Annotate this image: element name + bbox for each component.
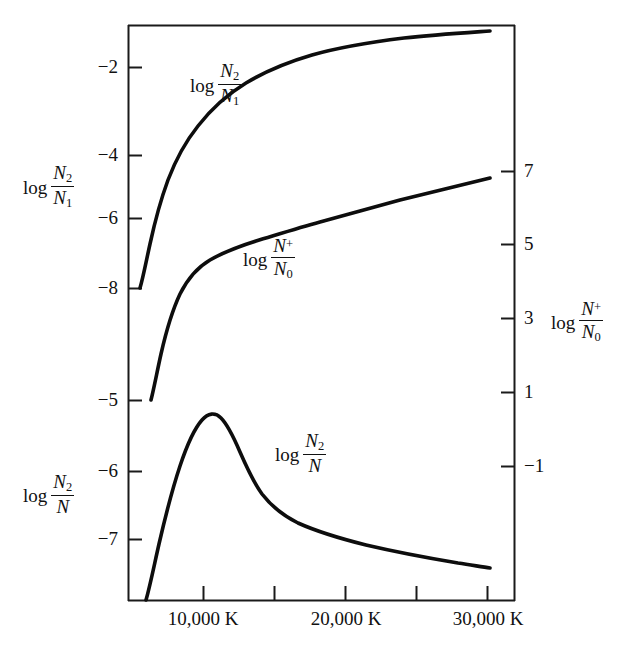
curve-annotation-upper-denominator: N1 bbox=[218, 85, 241, 108]
curve-annotation-middle-op: log bbox=[243, 249, 267, 270]
curve-annotation-lower-fraction: N2 N bbox=[303, 431, 326, 477]
x-tick-label-10000k: 10,000 K bbox=[143, 609, 263, 628]
y2-tick-label-minus6: −6 bbox=[78, 461, 118, 480]
y-right-tick-label-5: 5 bbox=[524, 234, 556, 253]
y-axis-title-lower-op: log bbox=[23, 485, 47, 506]
left-axis-ticks-upper bbox=[128, 68, 142, 289]
plot-frame bbox=[128, 25, 515, 601]
y2-tick-label-minus5: −5 bbox=[78, 390, 118, 409]
y-axis-title-lower-numerator: N2 bbox=[51, 472, 74, 496]
y-axis-title-right-op: log bbox=[551, 312, 575, 333]
y-right-tick-label-minus1: −1 bbox=[524, 456, 556, 475]
y-axis-title-right-denominator: N0 bbox=[579, 321, 603, 344]
curve-annotation-middle-numerator: N+ bbox=[271, 236, 295, 258]
curve-annotation-middle-denominator: N0 bbox=[271, 258, 295, 281]
x-axis-ticks bbox=[204, 586, 488, 600]
y-axis-title-upper-numerator: N2 bbox=[51, 163, 74, 187]
curve-annotation-upper-numerator: N2 bbox=[218, 61, 241, 85]
y-axis-title-upper: log N2 N1 bbox=[23, 164, 74, 212]
curve-annotation-lower-denominator: N bbox=[303, 455, 326, 476]
curve-annotation-log-n2-n: log N2 N bbox=[275, 432, 326, 478]
x-tick-label-30000k: 30,000 K bbox=[428, 609, 548, 628]
curve-annotation-upper-op: log bbox=[190, 75, 214, 96]
y-tick-label-minus4: −4 bbox=[78, 145, 118, 164]
y-tick-label-minus6: −6 bbox=[78, 208, 118, 227]
y-axis-title-lower: log N2 N bbox=[23, 473, 74, 519]
curve-annotation-middle-fraction: N+ N0 bbox=[271, 236, 295, 282]
y-right-tick-label-7: 7 bbox=[524, 161, 556, 180]
y-axis-title-upper-fraction: N2 N1 bbox=[51, 163, 74, 211]
y-axis-title-right: log N+ N0 bbox=[551, 300, 603, 346]
right-axis-ticks bbox=[501, 172, 515, 467]
curve-annotation-upper-fraction: N2 N1 bbox=[218, 61, 241, 109]
y-axis-title-lower-denominator: N bbox=[51, 496, 74, 517]
y-axis-title-lower-fraction: N2 N bbox=[51, 472, 74, 518]
x-tick-label-20000k: 20,000 K bbox=[286, 609, 406, 628]
curve-annotation-log-nplus-n0: log N+ N0 bbox=[243, 237, 295, 283]
curve-log-nplus-n0 bbox=[151, 178, 490, 400]
y-axis-title-upper-op: log bbox=[23, 177, 47, 198]
curve-annotation-lower-op: log bbox=[275, 444, 299, 465]
y-axis-title-right-numerator: N+ bbox=[579, 299, 603, 321]
figure-root: −2 −4 −6 −8 −5 −6 −7 7 5 3 1 −1 10,000 K… bbox=[0, 0, 624, 650]
y2-tick-label-minus7: −7 bbox=[78, 529, 118, 548]
y-axis-title-upper-denominator: N1 bbox=[51, 187, 74, 210]
y-tick-label-minus8: −8 bbox=[78, 278, 118, 297]
y-right-tick-label-1: 1 bbox=[524, 382, 556, 401]
left-axis-ticks-lower bbox=[128, 401, 142, 540]
curve-annotation-log-n2-n1: log N2 N1 bbox=[190, 62, 241, 110]
y-tick-label-minus2: −2 bbox=[78, 57, 118, 76]
curve-annotation-lower-numerator: N2 bbox=[303, 431, 326, 455]
y-axis-title-right-fraction: N+ N0 bbox=[579, 299, 603, 345]
